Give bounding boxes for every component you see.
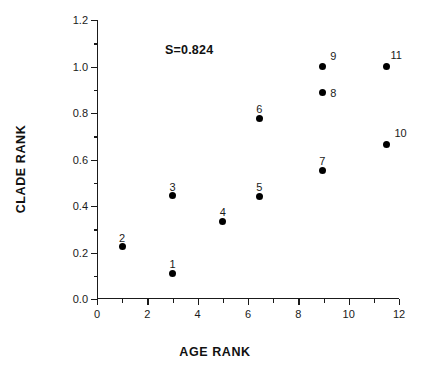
x-axis-title: AGE RANK [0,345,430,359]
y-axis-title: CLADE RANK [14,104,28,234]
y-tick-label: 0.0 [73,294,88,305]
y-tick-minor [94,136,98,137]
x-tick-label: 0 [94,309,100,320]
y-tick-label: 1.2 [73,15,88,26]
data-point-label: 8 [330,88,336,99]
x-tick-minor [122,299,123,303]
y-tick-label: 0.2 [73,247,88,258]
y-tick-minor [94,183,98,184]
data-point-marker [319,63,326,70]
x-tick-minor [324,299,325,303]
x-tick-label: 2 [144,309,150,320]
data-point-label: 1 [169,259,175,270]
x-tick-label: 12 [393,309,405,320]
data-point-label: 3 [169,182,175,193]
data-point-label: 7 [319,156,325,167]
y-tick-major [91,206,97,207]
x-tick-minor [273,299,274,303]
data-point-label: 5 [256,182,262,193]
y-axis-line [97,20,98,299]
data-point-label: 9 [330,51,336,62]
data-point-marker [256,193,263,200]
data-point-marker [169,192,176,199]
data-point-marker [256,115,263,122]
data-point-label: 11 [390,50,401,61]
x-tick-label: 8 [295,309,301,320]
y-tick-minor [94,43,98,44]
data-point-marker [383,141,390,148]
y-tick-major [91,160,97,161]
data-point-label: 10 [394,128,406,139]
x-tick-major [97,299,98,305]
data-point-label: 2 [119,233,125,244]
x-tick-major [248,299,249,305]
x-tick-minor [173,299,174,303]
x-tick-major [349,299,350,305]
data-point-label: 4 [220,207,226,218]
data-point-marker [219,218,226,225]
data-point-marker [383,63,390,70]
x-tick-major [298,299,299,305]
x-tick-label: 10 [343,309,355,320]
x-tick-major [399,299,400,305]
plot-area: 0.00.20.40.60.81.01.2 024681012 12345678… [97,20,399,299]
data-point-marker [319,89,326,96]
data-point-marker [319,167,326,174]
y-tick-minor [94,276,98,277]
y-tick-label: 0.8 [73,108,88,119]
y-tick-major [91,253,97,254]
y-tick-major [91,113,97,114]
y-tick-label: 0.4 [73,201,88,212]
data-point-label: 6 [256,104,262,115]
y-tick-major [91,67,97,68]
y-tick-major [91,20,97,21]
x-tick-minor [223,299,224,303]
x-tick-label: 6 [245,309,251,320]
data-point-marker [169,270,176,277]
scatter-plot-figure: 0.00.20.40.60.81.01.2 024681012 12345678… [0,0,430,375]
y-tick-minor [94,90,98,91]
statistic-annotation: S=0.824 [165,43,213,57]
x-tick-major [147,299,148,305]
y-tick-minor [94,229,98,230]
y-tick-label: 1.0 [73,61,88,72]
y-tick-label: 0.6 [73,154,88,165]
x-tick-major [198,299,199,305]
data-point-marker [119,243,126,250]
x-tick-minor [374,299,375,303]
x-tick-label: 4 [195,309,201,320]
